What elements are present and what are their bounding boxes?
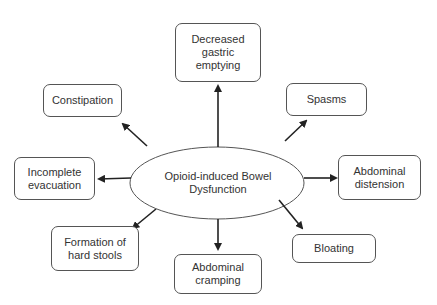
- node-incomplete-evacuation: Incomplete evacuation: [14, 157, 95, 200]
- node-constipation: Constipation: [43, 84, 122, 117]
- arrow-to-constipation: [123, 124, 147, 146]
- center-label: Opioid-induced Bowel Dysfunction: [131, 160, 305, 206]
- node-abdominal-distension: Abdominal distension: [338, 155, 421, 200]
- node-decreased-gastric-emptying: Decreased gastric emptying: [175, 23, 261, 82]
- node-abdominal-cramping: Abdominal cramping: [174, 254, 262, 294]
- arrow-to-spasms: [285, 121, 306, 141]
- arrow-to-formation-of-hard-stools: [133, 209, 156, 228]
- node-formation-of-hard-stools: Formation of hard stools: [51, 226, 139, 271]
- node-spasms: Spasms: [286, 83, 367, 116]
- node-bloating: Bloating: [292, 234, 376, 263]
- arrow-to-incomplete-evacuation: [99, 178, 131, 179]
